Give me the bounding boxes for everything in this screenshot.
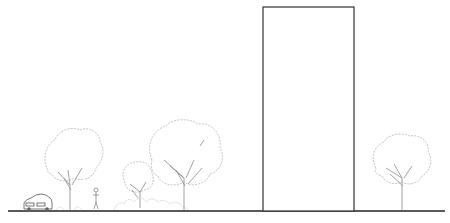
tree-right-icon bbox=[373, 134, 431, 210]
person-icon bbox=[93, 188, 99, 209]
shrub-cluster-icon bbox=[114, 162, 188, 210]
section-drawing bbox=[0, 0, 450, 223]
building-icon bbox=[263, 7, 354, 211]
car-icon bbox=[24, 194, 52, 211]
tree-center-icon bbox=[150, 120, 223, 210]
tree-left-icon bbox=[45, 128, 103, 210]
